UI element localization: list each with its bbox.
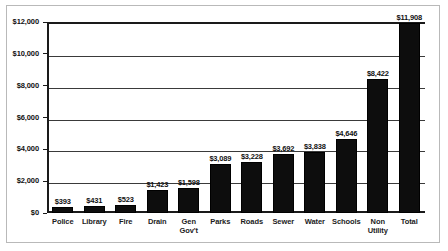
y-axis-tick-mark [43,53,47,54]
y-axis-tick-label: $2,000 [0,176,39,185]
bar[interactable] [367,79,388,213]
y-axis-tick-label: $8,000 [0,81,39,90]
y-axis-tick-label: $6,000 [0,113,39,122]
y-axis-tick-label: $4,000 [0,144,39,153]
bar[interactable] [273,154,294,213]
bar[interactable] [304,152,325,213]
y-axis-tick-label: $12,000 [0,17,39,26]
bar[interactable] [115,205,136,213]
bar[interactable] [336,139,357,213]
bar[interactable] [147,190,168,213]
bar[interactable] [399,23,420,213]
y-axis-tick-mark [43,22,47,23]
y-axis-tick-mark [43,85,47,86]
y-axis-tick-mark [43,117,47,118]
x-axis-category-label: Total [384,217,434,226]
bar[interactable] [178,188,199,213]
bar[interactable] [210,164,231,213]
y-axis-tick-mark [43,149,47,150]
y-axis-tick-mark [43,213,47,214]
y-axis-tick-mark [43,181,47,182]
gridline [49,56,425,57]
y-axis-tick-label: $10,000 [0,49,39,58]
y-axis-tick-label: $0 [0,208,39,217]
bar[interactable] [241,162,262,213]
bar[interactable] [52,207,73,213]
bar-chart: $0$2,000$4,000$6,000$8,000$10,000$12,000… [0,0,448,251]
bar-value-label: $11,908 [379,13,439,22]
bar[interactable] [84,206,105,213]
